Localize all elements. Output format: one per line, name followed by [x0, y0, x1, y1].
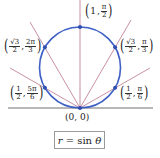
label-point-upper-right: ( √32 , π3 )	[119, 38, 154, 54]
point-pi-over-2	[78, 25, 82, 29]
point-origin	[78, 106, 82, 110]
equation-theta: θ	[95, 135, 101, 146]
label-point-lower-right: ( 12 , π6 )	[119, 85, 149, 101]
equation-sin: = sin	[63, 135, 96, 146]
label-point-lower-left: ( 12 , 5π6 )	[9, 85, 44, 101]
label-point-top: ( 1 , π2 )	[84, 3, 114, 19]
equation-box: r = sin θ	[54, 131, 105, 149]
label-point-upper-left: ( √32 , 2π3 )	[3, 38, 42, 54]
point-pi-over-3	[113, 45, 117, 49]
point-pi-over-6	[113, 86, 117, 90]
point-2pi-over-3	[43, 45, 47, 49]
label-origin: (0, 0)	[65, 112, 89, 122]
